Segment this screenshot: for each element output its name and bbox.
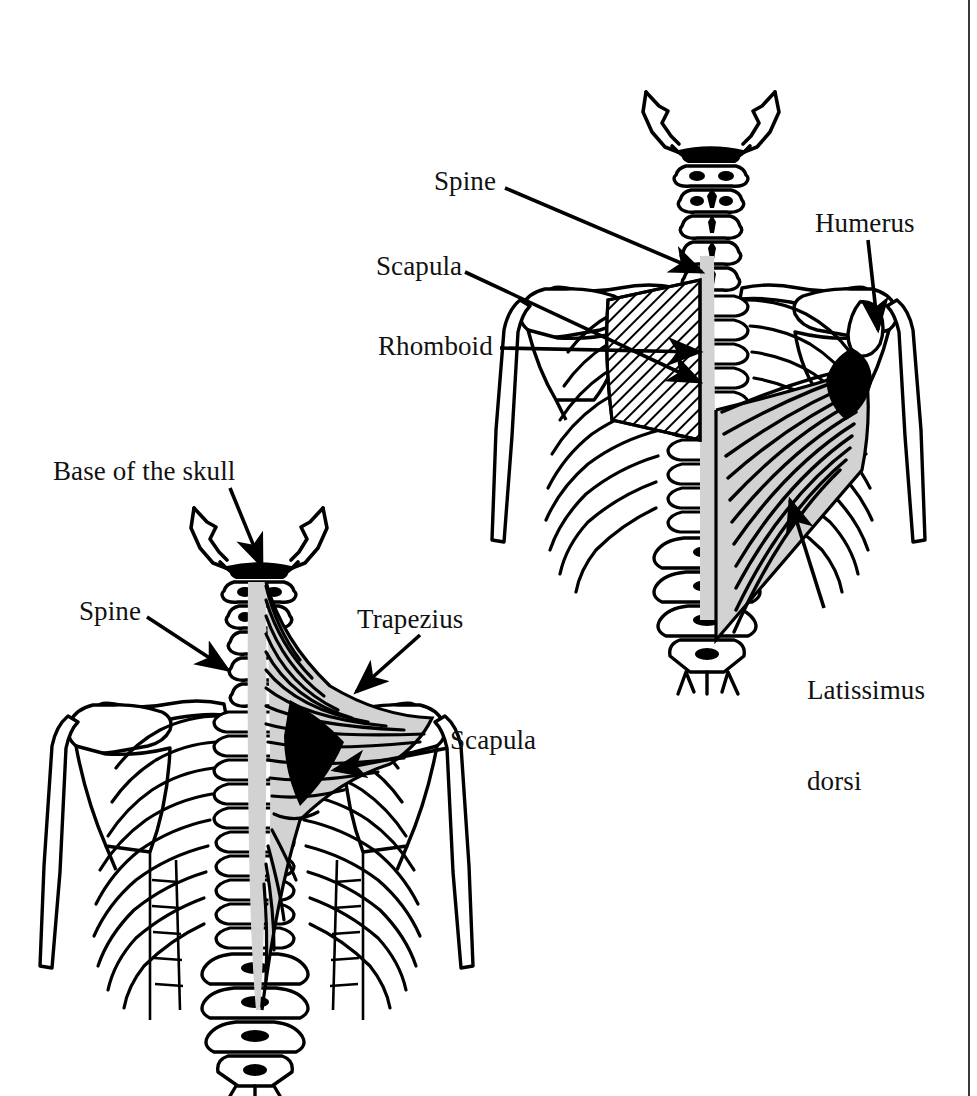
upper-sacrum-legs: [678, 672, 738, 694]
label-rhomboid: Rhomboid: [378, 331, 493, 361]
page-right-border: [968, 0, 970, 1096]
label-latissimus-line2: dorsi: [807, 766, 925, 796]
latissimus-dorsi-muscle: [716, 348, 872, 640]
upper-spine-stripe: [700, 256, 716, 620]
leader-trapezius: [356, 635, 420, 692]
label-humerus: Humerus: [815, 208, 915, 238]
leader-spine-lower: [147, 617, 228, 670]
upper-figure: [465, 92, 925, 694]
label-trapezius: Trapezius: [357, 604, 463, 634]
upper-skull-shadow: [682, 148, 741, 164]
leader-spine-upper: [505, 188, 702, 272]
anatomy-illustration: [0, 0, 977, 1096]
lower-figure: [40, 488, 473, 1096]
label-latissimus-line1: Latissimus: [807, 675, 925, 705]
label-base-of-the-skull: Base of the skull: [53, 456, 235, 486]
label-spine-lower: Spine: [79, 596, 141, 626]
label-scapula-lower: Scapula: [450, 725, 536, 755]
leader-base-of-skull: [230, 488, 262, 566]
lower-skull-shadow: [230, 564, 289, 580]
label-spine-upper: Spine: [434, 166, 496, 196]
label-latissimus-dorsi: Latissimus dorsi: [807, 615, 925, 857]
label-scapula-upper: Scapula: [376, 251, 462, 281]
figure-page: Spine Scapula Rhomboid Humerus Latissimu…: [0, 0, 977, 1096]
